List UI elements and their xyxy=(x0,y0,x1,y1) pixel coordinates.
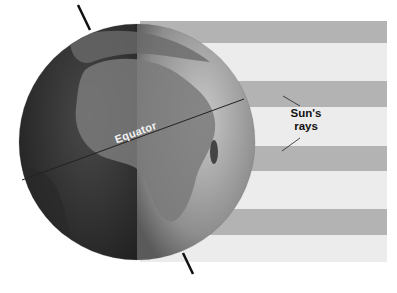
earth-sun-diagram: Equator Sun's rays xyxy=(0,0,397,293)
sun-rays-label-line2: rays xyxy=(282,120,330,133)
globe xyxy=(19,24,255,260)
sun-rays-label: Sun's rays xyxy=(282,107,330,133)
axis-top xyxy=(78,5,90,30)
diagram-svg xyxy=(0,0,397,293)
sun-rays-label-line1: Sun's xyxy=(282,107,330,120)
madagascar xyxy=(210,140,218,164)
